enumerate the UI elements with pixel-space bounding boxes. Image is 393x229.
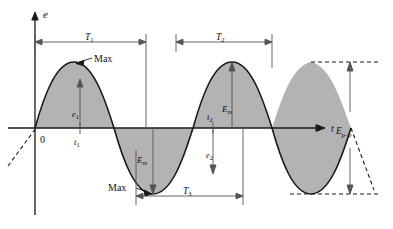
t2-arrowhead-right [265, 39, 272, 45]
max-positive-callout [76, 58, 92, 66]
max-positive-label: Max [94, 53, 112, 64]
t1-label: t1 [74, 137, 80, 148]
t3-arrowhead-left [136, 193, 143, 199]
bottom-mask [0, 210, 393, 229]
t2-subscript: 2 [210, 116, 213, 123]
top-mask [0, 0, 393, 20]
e2-label: e2 [206, 150, 213, 161]
t3-arrowhead-right [236, 193, 243, 199]
t1-arrowhead-right [139, 39, 146, 45]
period-t1-subscript: 1 [90, 36, 93, 43]
ppk-arrowhead-bottom [347, 185, 353, 194]
t2-arrowhead-left [176, 39, 183, 45]
dashed-right-extension [351, 128, 374, 190]
period-t2-label: T2 [216, 32, 225, 43]
e1-subscript: 1 [76, 113, 79, 120]
period-t2-subscript: 2 [221, 36, 224, 43]
y-axis-label: e [43, 8, 48, 20]
em-positive-subscript: m [228, 108, 233, 115]
e2-value-arrow [210, 128, 216, 174]
wave-lobe-positive-3 [272, 62, 351, 128]
waveform-figure: e t 0 T1 T2 [0, 0, 393, 229]
origin-label: 0 [40, 134, 45, 145]
period-t1-label: T1 [85, 32, 94, 43]
x-axis-label: t [331, 123, 334, 134]
t1-arrowhead-left [35, 39, 42, 45]
ppk-subscript: p–p [341, 131, 353, 138]
dashed-left-extension [8, 128, 36, 166]
em-negative-subscript: m [143, 159, 148, 166]
period-t3-subscript: 3 [188, 190, 191, 197]
e2-subscript: 2 [210, 154, 213, 161]
ppk-arrowhead-top [347, 62, 353, 71]
e2-arrowhead [210, 165, 216, 174]
max-negative-label: Max [108, 182, 126, 193]
t1-subscript: 1 [77, 141, 80, 148]
period-t3-label: T3 [183, 186, 192, 197]
waveform-diagram: e t 0 T1 T2 [0, 0, 393, 229]
